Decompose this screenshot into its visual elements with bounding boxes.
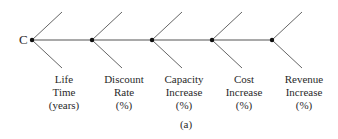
node-dot xyxy=(270,38,274,42)
node-dot xyxy=(150,38,154,42)
root-label: C xyxy=(19,32,28,48)
figure-caption: (a) xyxy=(171,118,201,131)
node-dot xyxy=(30,38,34,42)
label-line: Revenue xyxy=(269,73,338,86)
label-line: (%) xyxy=(269,99,338,112)
node-dot xyxy=(210,38,214,42)
branch-5 xyxy=(270,12,302,68)
cause-chain-graphic xyxy=(0,0,338,139)
node-label-revenue-increase: Revenue Increase (%) xyxy=(269,73,338,112)
node-dot xyxy=(90,38,94,42)
label-line: Increase xyxy=(269,86,338,99)
